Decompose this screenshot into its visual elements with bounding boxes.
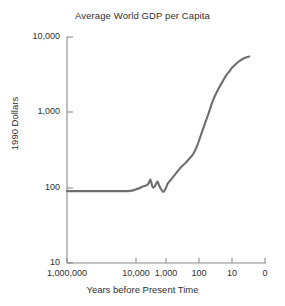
x-tick-marks [67, 258, 265, 263]
plot-area [0, 0, 285, 306]
y-tick-marks [67, 37, 73, 263]
chart-figure: Average World GDP per Capita 1990 Dollar… [0, 0, 285, 306]
gdp-per-capita-line [67, 57, 249, 192]
axis-lines [67, 37, 266, 263]
